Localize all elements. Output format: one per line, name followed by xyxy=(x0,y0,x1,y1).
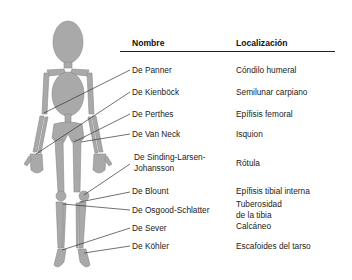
foot-right xyxy=(78,249,90,267)
row-name-sever: De Sever xyxy=(132,223,167,233)
skull xyxy=(53,21,83,63)
skeleton-diagram xyxy=(0,0,352,280)
foot-left xyxy=(54,249,66,267)
hand-left xyxy=(30,154,43,173)
row-location-van-neck: Isquion xyxy=(236,129,263,139)
row-location-sever: Calcáneo xyxy=(236,221,271,231)
column-header-name: Nombre xyxy=(132,38,164,48)
row-name-blount: De Blount xyxy=(132,186,168,196)
header-divider xyxy=(120,51,335,52)
row-name-van-neck: De Van Neck xyxy=(132,129,180,139)
row-name-sinding-larsen-line2: Johansson xyxy=(134,163,174,173)
leader-osgood xyxy=(63,204,130,210)
row-location-kohler: Escafoides del tarso xyxy=(236,241,311,251)
row-name-kienbock: De Kienböck xyxy=(132,87,179,97)
leader-sinding-larsen xyxy=(84,164,130,195)
row-location-panner: Cóndilo humeral xyxy=(236,65,296,75)
rib-cage xyxy=(52,72,84,116)
patella-left xyxy=(56,191,66,201)
row-name-perthes: De Perthes xyxy=(132,109,174,119)
row-location-blount: Epífisis tibial interna xyxy=(236,186,310,196)
row-name-panner: De Panner xyxy=(132,65,172,75)
row-location-osgood-line1: Tuberosidad xyxy=(236,199,282,209)
skeleton xyxy=(24,21,112,267)
fibula-right xyxy=(76,203,79,248)
neck xyxy=(64,62,72,68)
row-name-kohler: De Köhler xyxy=(132,241,169,251)
femur-right xyxy=(73,140,81,192)
row-location-perthes: Epífisis femoral xyxy=(236,109,293,119)
row-location-osgood-line2: de la tibia xyxy=(236,210,272,220)
leader-kohler xyxy=(84,246,130,253)
row-name-osgood-schlatter: De Osgood-Schlatter xyxy=(132,205,209,215)
tibia-right xyxy=(79,202,86,248)
humerus-left xyxy=(42,73,49,114)
column-header-location: Localización xyxy=(236,38,288,48)
humerus-right xyxy=(87,73,94,114)
femur-left xyxy=(55,140,64,192)
row-name-sinding-larsen-line1: De Sinding-Larsen- xyxy=(134,152,205,162)
row-location-kienbock: Semilunar carpiano xyxy=(236,87,307,97)
tibia-left xyxy=(56,202,63,248)
leader-sever xyxy=(62,228,130,250)
row-location-sinding-larsen: Rótula xyxy=(236,158,260,168)
hand-right xyxy=(93,154,106,173)
